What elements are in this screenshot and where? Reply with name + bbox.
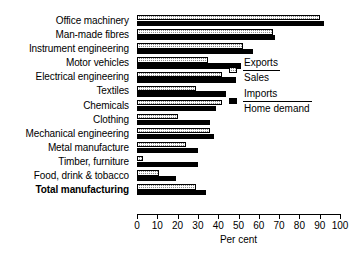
legend-entry-exports-sales: Exports Sales: [229, 56, 347, 87]
legend-swatch-exports-sales: [229, 67, 237, 73]
category-label: Timber, furniture: [0, 155, 133, 169]
bar-group: [137, 183, 340, 197]
bar-group: [137, 141, 340, 155]
bar-exports-sales: [137, 100, 222, 105]
x-axis-tick: [178, 214, 179, 219]
bar-exports-sales: [137, 72, 222, 77]
x-axis-title: Per cent: [137, 234, 340, 245]
bar-imports-home-demand: [137, 134, 214, 139]
category-label: Textiles: [0, 84, 133, 98]
bar-exports-sales: [137, 156, 143, 161]
legend-denominator-sales: Sales: [243, 71, 280, 85]
category-label: Electrical engineering: [0, 70, 133, 84]
category-label: Food, drink & tobacco: [0, 169, 133, 183]
legend-label-imports-home-demand: Imports Home demand: [243, 87, 312, 116]
bar-group: [137, 14, 340, 28]
bar-group: [137, 127, 340, 141]
category-axis-labels: Office machineryMan-made fibresInstrumen…: [0, 14, 133, 197]
bar-imports-home-demand: [137, 35, 275, 40]
x-axis-tick: [239, 214, 240, 219]
x-axis-tick-label: 100: [327, 220, 353, 231]
bar-imports-home-demand: [137, 120, 210, 125]
bar-exports-sales: [137, 114, 178, 119]
legend-label-exports-sales: Exports Sales: [243, 56, 280, 85]
x-axis-tick: [279, 214, 280, 219]
x-axis-tick: [157, 214, 158, 219]
category-label: Chemicals: [0, 99, 133, 113]
bar-exports-sales: [137, 128, 210, 133]
bar-imports-home-demand: [137, 91, 226, 96]
bar-group: [137, 42, 340, 56]
x-axis-tick: [320, 214, 321, 219]
legend-numerator-exports: Exports: [243, 56, 280, 71]
bar-imports-home-demand: [137, 77, 236, 82]
legend-denominator-home-demand: Home demand: [243, 102, 312, 116]
category-label: Office machinery: [0, 14, 133, 28]
bar-group: [137, 169, 340, 183]
bar-imports-home-demand: [137, 63, 241, 68]
bar-chart: Office machineryMan-made fibresInstrumen…: [0, 0, 359, 266]
bar-exports-sales: [137, 170, 159, 175]
bar-imports-home-demand: [137, 162, 198, 167]
bar-exports-sales: [137, 57, 208, 62]
legend-numerator-imports: Imports: [243, 87, 312, 102]
x-axis-tick: [218, 214, 219, 219]
bar-exports-sales: [137, 86, 196, 91]
chart-legend: Exports Sales Imports Home demand: [229, 56, 347, 118]
bar-exports-sales: [137, 29, 273, 34]
bar-imports-home-demand: [137, 148, 198, 153]
x-axis-tick: [340, 214, 341, 219]
bar-imports-home-demand: [137, 21, 324, 26]
bar-exports-sales: [137, 15, 320, 20]
bar-group: [137, 28, 340, 42]
bar-exports-sales: [137, 184, 196, 189]
category-label: Metal manufacture: [0, 141, 133, 155]
bar-imports-home-demand: [137, 49, 253, 54]
legend-entry-imports-home-demand: Imports Home demand: [229, 87, 347, 118]
category-label: Man-made fibres: [0, 28, 133, 42]
bar-group: [137, 155, 340, 169]
legend-swatch-imports-home-demand: [229, 98, 237, 104]
category-label: Total manufacturing: [0, 183, 133, 197]
category-label: Mechanical engineering: [0, 127, 133, 141]
bar-imports-home-demand: [137, 176, 176, 181]
x-axis-tick: [299, 214, 300, 219]
bar-exports-sales: [137, 142, 186, 147]
category-label: Instrument engineering: [0, 42, 133, 56]
category-label: Motor vehicles: [0, 56, 133, 70]
bar-imports-home-demand: [137, 190, 206, 195]
x-axis-tick: [137, 214, 138, 219]
x-axis-tick: [259, 214, 260, 219]
x-axis-tick: [198, 214, 199, 219]
bar-exports-sales: [137, 43, 243, 48]
category-label: Clothing: [0, 113, 133, 127]
bar-imports-home-demand: [137, 106, 216, 111]
